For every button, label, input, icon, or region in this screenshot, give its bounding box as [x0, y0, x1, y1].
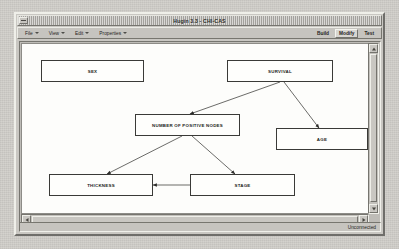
node-age[interactable]: AGE	[276, 128, 368, 150]
node-number-of-positive-nodes-label: NUMBER OF POSITIVE NODES	[152, 123, 223, 128]
node-sex[interactable]: SEX	[41, 60, 144, 82]
node-sex-label: SEX	[88, 69, 98, 74]
arrow-right-icon	[362, 218, 365, 222]
menu-item-file[interactable]: File	[21, 29, 43, 38]
title-bar[interactable]: Hugin 3.3 - CHI-CAS	[17, 15, 382, 26]
arrow-down-icon	[372, 207, 376, 210]
menu-item-properties[interactable]: Properties	[95, 29, 131, 38]
menu-item-file-label: File	[25, 31, 33, 36]
node-thickness[interactable]: THICKNESS	[49, 174, 153, 196]
chevron-down-icon	[123, 32, 127, 34]
node-stage-label: STAGE	[234, 183, 250, 188]
scroll-up-button[interactable]	[369, 44, 378, 53]
chevron-down-icon	[85, 32, 89, 34]
node-survival-label: SURVIVAL	[268, 69, 292, 74]
node-age-label: AGE	[317, 137, 327, 142]
vertical-scrollbar[interactable]	[368, 43, 379, 214]
menu-item-properties-label: Properties	[99, 31, 121, 36]
network-canvas[interactable]: SEX SURVIVAL NUMBER OF POSITIVE NODES AG…	[21, 43, 369, 214]
arrow-left-icon	[25, 218, 28, 222]
status-text: Unconnected	[348, 225, 376, 230]
menu-item-edit-label: Edit	[75, 31, 83, 36]
node-number-of-positive-nodes[interactable]: NUMBER OF POSITIVE NODES	[135, 114, 240, 136]
arrow-up-icon	[372, 47, 376, 50]
node-stage[interactable]: STAGE	[190, 174, 295, 196]
mode-button-group: Build Modify Test	[313, 29, 378, 38]
mode-button-test[interactable]: Test	[360, 29, 378, 38]
chevron-down-icon	[61, 32, 65, 34]
network-canvas-frame: SEX SURVIVAL NUMBER OF POSITIVE NODES AG…	[19, 41, 381, 227]
window-title: Hugin 3.3 - CHI-CAS	[173, 18, 225, 24]
menu-bar: File View Edit Properties Build Modify T…	[17, 27, 382, 39]
scroll-down-button[interactable]	[369, 204, 378, 213]
mode-button-build[interactable]: Build	[313, 29, 333, 38]
menu-item-view[interactable]: View	[45, 29, 69, 38]
window-menu-icon[interactable]	[19, 17, 28, 24]
vertical-scrollbar-thumb[interactable]	[370, 54, 377, 202]
status-bar: Unconnected	[19, 222, 381, 232]
menu-item-view-label: View	[49, 31, 59, 36]
node-thickness-label: THICKNESS	[87, 183, 115, 188]
chevron-down-icon	[35, 32, 39, 34]
mode-button-modify[interactable]: Modify	[335, 29, 358, 38]
menu-item-edit[interactable]: Edit	[71, 29, 93, 38]
application-window: Hugin 3.3 - CHI-CAS File View Edit Prope…	[14, 12, 385, 236]
node-survival[interactable]: SURVIVAL	[227, 60, 333, 82]
